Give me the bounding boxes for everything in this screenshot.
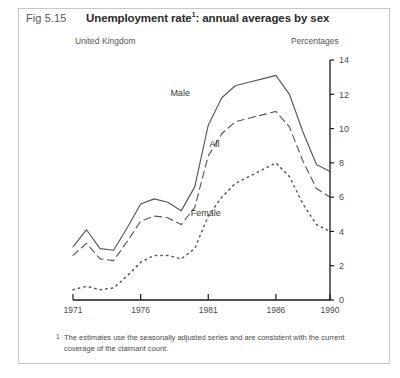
series-label-female: Female <box>191 208 221 218</box>
y-axis-tick-label: 8 <box>339 158 344 168</box>
figure-container: Fig 5.15 Unemployment rate1: annual aver… <box>0 0 400 378</box>
series-label-male: Male <box>170 88 190 98</box>
footnote-text: The estimates use the seasonally adjuste… <box>64 333 364 355</box>
y-axis-tick-label: 6 <box>339 192 344 202</box>
chart-axes: 0246810121419711976198119861990 <box>64 55 349 315</box>
y-axis-tick-label: 2 <box>339 261 344 271</box>
y-axis-tick-label: 0 <box>339 295 344 305</box>
y-axis-tick-label: 12 <box>339 90 349 100</box>
chart-series-labels: MaleAllFemale <box>170 88 220 218</box>
y-axis-tick-label: 4 <box>339 227 344 237</box>
series-line-all <box>73 111 330 260</box>
x-axis-tick-label: 1981 <box>199 305 218 315</box>
x-axis-tick-label: 1990 <box>321 305 340 315</box>
series-line-male <box>73 75 330 250</box>
series-label-all: All <box>210 139 220 149</box>
chart-plot: 0246810121419711976198119861990 MaleAllF… <box>0 0 400 378</box>
x-axis-tick-label: 1986 <box>266 305 285 315</box>
chart-series <box>73 75 330 289</box>
series-line-female <box>73 163 330 290</box>
footnote-marker: 1 <box>56 332 60 341</box>
y-axis-tick-label: 14 <box>339 55 349 65</box>
footnote: 1 The estimates use the seasonally adjus… <box>64 333 364 355</box>
y-axis-tick-label: 10 <box>339 124 349 134</box>
x-axis-tick-label: 1976 <box>131 305 150 315</box>
x-axis-tick-label: 1971 <box>64 305 83 315</box>
